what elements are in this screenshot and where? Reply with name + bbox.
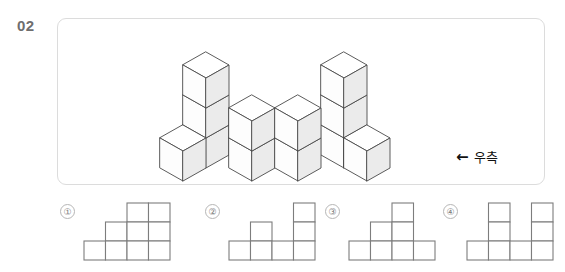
option-marker-4: ④ — [443, 204, 458, 219]
stimulus-panel: ← 우측 — [57, 18, 545, 185]
option-grid-4 — [465, 201, 557, 261]
left-arrow-icon: ← — [456, 150, 469, 165]
worksheet-page: 02 — [0, 0, 565, 272]
answer-options: ① — [0, 196, 565, 268]
question-number: 02 — [17, 18, 35, 33]
option-grid-1 — [82, 201, 174, 261]
direction-label: ← 우측 — [456, 150, 498, 165]
option-grid-3 — [347, 201, 439, 261]
direction-label-text: 우측 — [474, 151, 498, 164]
option-marker-3: ③ — [325, 204, 340, 219]
option-grid-2 — [227, 201, 319, 261]
option-marker-1: ① — [60, 204, 75, 219]
option-marker-2: ② — [205, 204, 220, 219]
